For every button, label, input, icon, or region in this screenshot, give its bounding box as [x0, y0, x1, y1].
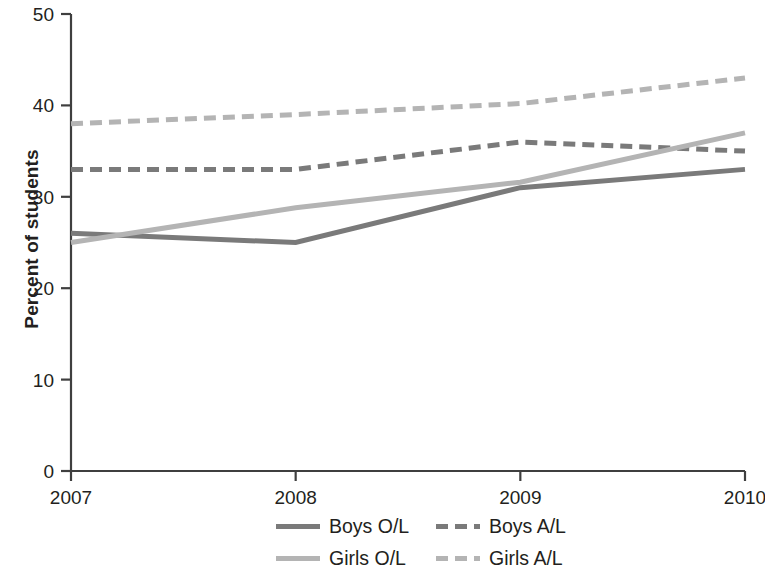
legend-item[interactable]: Boys O/L — [276, 510, 436, 542]
y-tick-label: 0 — [43, 461, 54, 482]
line-chart: 01020304050 2007200820092010 Percent of … — [0, 0, 765, 574]
chart-plot-area: 01020304050 2007200820092010 — [0, 0, 765, 574]
legend-item[interactable]: Girls A/L — [436, 542, 596, 574]
series-line-girls-a-l — [71, 78, 745, 124]
x-axis-tick-labels: 2007200820092010 — [50, 487, 765, 508]
legend-swatch-solid — [276, 524, 320, 529]
y-tick-label: 10 — [33, 370, 54, 391]
x-tick-label: 2007 — [50, 487, 92, 508]
x-tick-label: 2009 — [499, 487, 541, 508]
chart-legend: Boys O/LBoys A/LGirls O/LGirls A/L — [276, 510, 676, 574]
y-tick-label: 50 — [33, 4, 54, 25]
series-line-boys-o-l — [71, 169, 745, 242]
y-axis-title: Percent of students — [21, 119, 43, 359]
x-axis-ticks — [71, 471, 745, 481]
legend-item[interactable]: Boys A/L — [436, 510, 596, 542]
legend-swatch-solid — [276, 556, 320, 561]
x-tick-label: 2010 — [724, 487, 765, 508]
legend-swatch-dashed — [436, 524, 480, 529]
data-series-group — [71, 78, 745, 243]
legend-label: Boys O/L — [329, 515, 409, 538]
y-tick-label: 40 — [33, 95, 54, 116]
legend-label: Girls A/L — [489, 547, 563, 570]
legend-label: Boys A/L — [489, 515, 566, 538]
y-axis-ticks — [61, 14, 71, 471]
legend-label: Girls O/L — [329, 547, 406, 570]
legend-item[interactable]: Girls O/L — [276, 542, 436, 574]
x-tick-label: 2008 — [275, 487, 317, 508]
legend-swatch-dashed — [436, 556, 480, 561]
